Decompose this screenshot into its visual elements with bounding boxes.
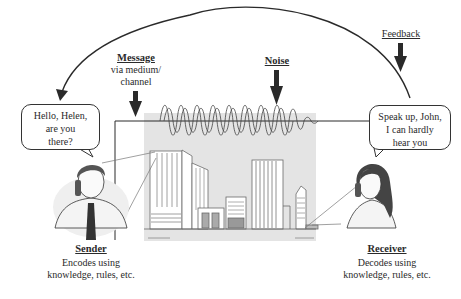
noise-title: Noise [256, 55, 298, 67]
noise-label: Noise [256, 55, 298, 67]
receiver-sub1: Decodes using [334, 257, 440, 269]
feedback-arc-arrowhead [56, 89, 68, 101]
receiver-bubble-line2: I can hardly [372, 123, 448, 136]
message-title: Message [104, 52, 168, 64]
receiver-speech-bubble: Speak up, John, I can hardly hear you [369, 105, 451, 150]
sender-sub1: Encodes using [38, 257, 144, 269]
noise-arrow-icon [270, 70, 283, 105]
receiver-avatar [347, 164, 396, 228]
sender-speech-bubble: Hello, Helen, are you there? [21, 104, 100, 150]
sender-bubble-line1: Hello, Helen, [24, 109, 97, 122]
receiver-bubble-line3: hear you [372, 136, 448, 149]
message-sub1: via medium/ [104, 64, 168, 76]
receiver-connector-2 [312, 224, 341, 225]
message-arrow-icon [129, 91, 142, 117]
sender-sub2: knowledge, rules, etc. [38, 269, 144, 281]
sender-title: Sender [38, 243, 144, 255]
sender-label: Sender Encodes using knowledge, rules, e… [38, 243, 144, 281]
feedback-arrow-icon [394, 43, 407, 72]
receiver-title: Receiver [334, 243, 440, 255]
feedback-title: Feedback [374, 28, 428, 40]
feedback-label: Feedback [374, 28, 428, 40]
receiver-bubble-line1: Speak up, John, [372, 110, 448, 123]
message-sub2: channel [104, 76, 168, 88]
sender-bubble-line2: are you [24, 122, 97, 135]
receiver-sub2: knowledge, rules, etc. [334, 269, 440, 281]
sender-avatar [53, 165, 129, 240]
sender-bubble-line3: there? [24, 135, 97, 148]
message-label: Message via medium/ channel [104, 52, 168, 88]
receiver-label: Receiver Decodes using knowledge, rules,… [334, 243, 440, 281]
